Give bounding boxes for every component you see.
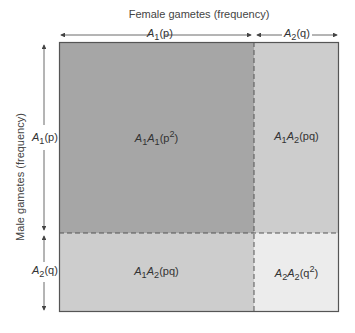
female-a2-label: A2(q): [284, 27, 310, 42]
diagram-lines: [0, 0, 355, 333]
male-a1-label: A1(p): [32, 131, 58, 146]
male-a2-label: A2(q): [32, 264, 58, 279]
female-a1-label: A1(p): [147, 27, 173, 42]
